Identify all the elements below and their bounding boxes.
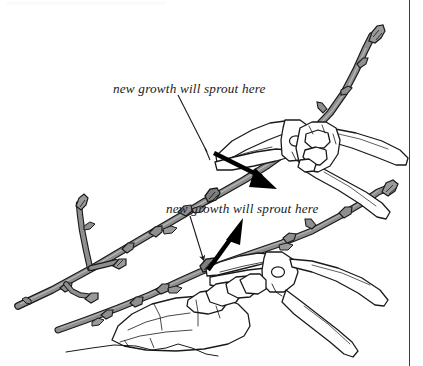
pruning-illustration [0,0,423,366]
upper-hand [296,122,340,172]
page-border-right [409,0,410,366]
upper-leader-line [178,95,207,152]
lower-branch-tip-bud [382,180,398,196]
upper-annotation-label: new growth will sprout here [113,81,266,97]
upper-leader-line-extension [205,148,210,160]
figure-page: new growth will sprout here new growth w… [0,0,423,366]
lower-leader-line [190,216,203,258]
lower-annotation-label: new growth will sprout here [166,201,319,217]
upper-branch-tip-bud [369,25,385,43]
upper-branch-side-shoot-down [66,284,98,303]
lower-hand [112,274,266,351]
upper-branch-side-shoot-up [76,194,95,268]
